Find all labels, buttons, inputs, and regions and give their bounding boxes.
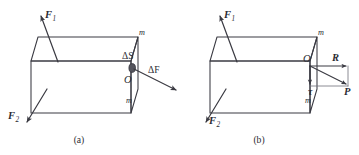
corner-label-bottom-a: m: [126, 96, 132, 105]
force-1-label-b: F: [223, 9, 231, 20]
area-element-label-a: ΔS: [122, 50, 134, 61]
normal-stress-label-b: R: [331, 52, 339, 63]
box-b-top-face: [210, 37, 317, 61]
box-b-front-face: [210, 61, 310, 113]
origin-label-a: O: [124, 74, 132, 85]
box-a-front-face: [31, 61, 131, 113]
force-1-label-a: F: [44, 9, 52, 20]
box-a: [31, 37, 138, 113]
origin-label-b: O: [303, 53, 311, 64]
delta-force-label-a: ΔF: [148, 64, 160, 75]
caption-a: (a): [74, 134, 85, 146]
force-1-arrow-a: [41, 16, 58, 62]
corner-label-top-b: m: [318, 28, 324, 37]
force-2-label-a: F: [7, 110, 15, 121]
box-b-right-face: [310, 37, 317, 113]
force-2-arrow-a: [27, 89, 47, 122]
force-1-subscript-a: 1: [53, 15, 57, 23]
corner-label-top-a: m: [139, 28, 145, 37]
caption-b: (b): [253, 134, 264, 146]
shear-stress-label-b: τ: [308, 86, 313, 97]
resultant-arrow-b: [310, 66, 346, 84]
box-b: [210, 37, 317, 113]
figure-canvas: F 1 F 2 m m ΔS O ΔF (a): [0, 0, 359, 155]
panel-a: F 1 F 2 m m ΔS O ΔF (a): [7, 9, 176, 146]
force-1-arrow-b: [220, 16, 237, 62]
panel-b: F 1 F 2 m m O R τ P: [206, 9, 351, 146]
force-1-subscript-b: 1: [232, 15, 236, 23]
stress-figure: F 1 F 2 m m ΔS O ΔF (a): [0, 0, 359, 155]
corner-label-bottom-b: m: [305, 96, 311, 105]
force-2-vector-a: [27, 89, 47, 122]
force-1-vector-a: [41, 16, 58, 62]
force-2-subscript-b: 2: [217, 121, 221, 129]
force-2-label-b: F: [208, 115, 216, 126]
box-a-right-face: [131, 37, 138, 113]
force-2-subscript-a: 2: [16, 116, 20, 124]
area-element-patch-a: [129, 64, 136, 73]
resultant-label-b: P: [344, 86, 351, 97]
